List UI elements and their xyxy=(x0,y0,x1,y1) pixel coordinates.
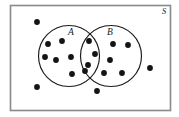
element-dot xyxy=(119,70,125,76)
element-dot xyxy=(86,38,92,44)
element-dot xyxy=(85,62,91,68)
element-dot xyxy=(125,42,131,48)
element-dot xyxy=(34,19,40,25)
element-dot xyxy=(34,84,40,90)
element-dot xyxy=(94,88,100,94)
element-dot xyxy=(53,57,59,63)
set-a-label: A xyxy=(67,27,74,37)
element-dot xyxy=(147,65,153,71)
element-dot xyxy=(110,41,116,47)
element-dot xyxy=(92,51,98,57)
element-dot xyxy=(59,38,65,44)
set-b-label: B xyxy=(107,27,113,37)
element-dot xyxy=(69,71,75,77)
element-dot xyxy=(107,57,113,63)
venn-diagram-figure: S A B xyxy=(0,0,179,117)
element-dot xyxy=(45,41,51,47)
element-dot xyxy=(82,68,88,74)
venn-diagram-canvas: S A B xyxy=(0,0,179,117)
element-dot xyxy=(68,54,74,60)
element-dot xyxy=(101,70,107,76)
element-dot xyxy=(42,54,48,60)
